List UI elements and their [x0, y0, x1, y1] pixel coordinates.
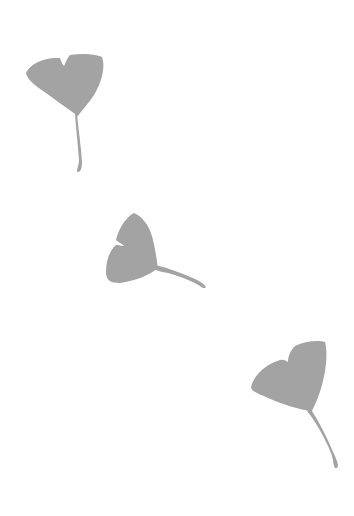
ginkgo-leaves-illustration: Three gray ginkgo leaves scattered diago…: [0, 0, 354, 516]
ginkgo-leaf-top-left: [26, 54, 103, 172]
ginkgo-leaf-middle: [106, 213, 206, 288]
ginkgo-leaf-bottom-right: [251, 341, 338, 468]
